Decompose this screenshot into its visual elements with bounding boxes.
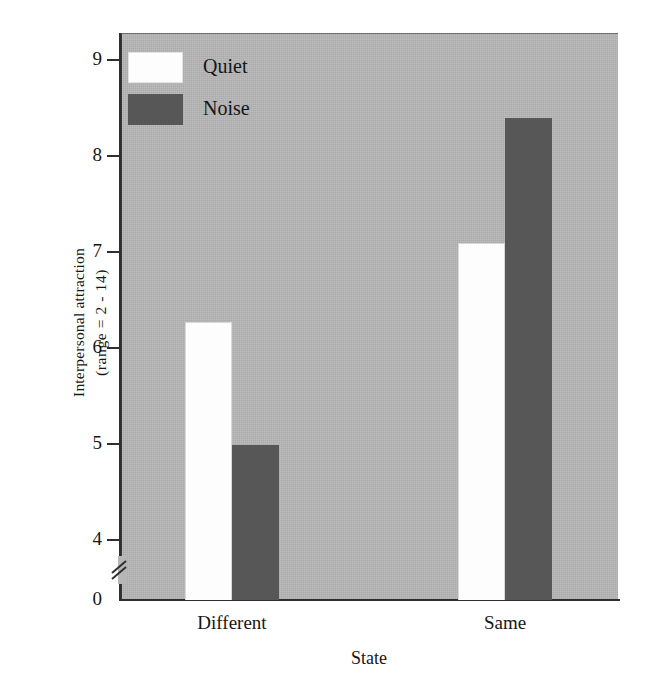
bar-same-noise: [505, 118, 552, 600]
bar-different-noise: [232, 445, 279, 600]
legend-label-noise: Noise: [203, 97, 250, 120]
bar-different-quiet: [185, 322, 232, 600]
legend-swatch-quiet: [128, 52, 183, 83]
y-tick-label-0: 0: [66, 589, 102, 608]
y-tick-label-4: 4: [66, 529, 102, 548]
legend: Quiet Noise: [128, 48, 358, 132]
y-axis-title: Interpersonal attraction (range = 2 - 14…: [68, 172, 113, 472]
y-tick-8: [107, 155, 120, 157]
y-tick-label-9: 9: [66, 49, 102, 68]
y-axis-line: [119, 33, 121, 601]
y-tick-label-8: 8: [66, 145, 102, 164]
y-tick-label-4-wrap: 4: [58, 529, 102, 549]
y-axis-title-line1: Interpersonal attraction: [68, 172, 90, 472]
bar-same-quiet: [458, 243, 505, 600]
x-tick-label-same: Same: [405, 612, 605, 634]
x-axis-title: State: [120, 648, 618, 669]
legend-item-quiet: Quiet: [128, 48, 358, 90]
y-axis-title-line2: (range = 2 - 14): [90, 172, 112, 472]
y-tick-9: [107, 59, 120, 61]
y-tick-4: [107, 539, 120, 541]
legend-label-quiet: Quiet: [203, 55, 247, 78]
legend-item-noise: Noise: [128, 90, 358, 132]
x-tick-label-different: Different: [132, 612, 332, 634]
y-tick-label-9-wrap: 9: [58, 49, 102, 69]
legend-swatch-noise: [128, 94, 183, 125]
bar-chart-figure: 9 8 7 6 5 4 0 Interpersonal attraction (…: [0, 0, 652, 682]
y-tick-label-8-wrap: 8: [58, 145, 102, 165]
y-tick-label-0-wrap: 0: [58, 589, 102, 609]
